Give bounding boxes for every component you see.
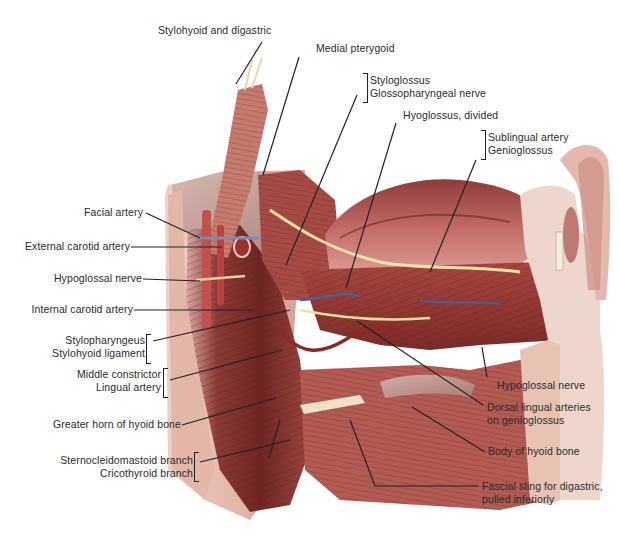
bracket-stylopharyngeus	[146, 334, 151, 364]
label-scm-cricothyroid-group: Sternocleidomastoid branch Cricothyroid …	[60, 454, 193, 480]
anatomy-figure: Stylohyoid and digastric Medial pterygoi…	[0, 0, 619, 540]
label-body-of-hyoid: Body of hyoid bone	[488, 445, 580, 458]
label-hypoglossal-nerve-right: Hypoglossal nerve	[497, 379, 585, 392]
label-fascial-sling: Fascial sling for digastric, pulled infe…	[482, 480, 603, 506]
bracket-sublingual	[481, 130, 486, 160]
leader-body-hyoid	[412, 407, 485, 452]
leader-greater-horn	[182, 398, 276, 425]
label-middle-constrictor-group: Middle constrictor Lingual artery	[77, 368, 161, 394]
label-hyoglossus-divided: Hyoglossus, divided	[403, 109, 498, 122]
leader-sublingual	[430, 160, 476, 272]
leader-middle-constrictor	[170, 350, 282, 380]
label-external-carotid: External carotid artery	[25, 240, 130, 253]
leader-styloglossus	[286, 95, 357, 265]
leader-medial-pterygoid	[263, 57, 299, 175]
label-styloglossus-group: Styloglossus Glossopharyngeal nerve	[370, 74, 486, 100]
leader-dorsal-lingual	[357, 321, 483, 405]
label-greater-horn: Greater horn of hyoid bone	[53, 418, 181, 431]
label-medial-pterygoid: Medial pterygoid	[316, 42, 395, 55]
leader-facial-artery	[146, 213, 200, 238]
label-sublingual-group: Sublingual artery Genioglossus	[488, 131, 569, 157]
leader-hypoglossal-left	[143, 279, 200, 281]
label-stylohyoid-digastric: Stylohyoid and digastric	[158, 24, 271, 37]
leader-scm-cricothyroid	[200, 440, 290, 462]
leader-hypoglossal-right	[482, 347, 487, 377]
label-dorsal-lingual: Dorsal lingual arteries on genioglossus	[487, 401, 591, 427]
label-internal-carotid: Internal carotid artery	[31, 303, 133, 316]
label-stylopharyngeus-group: Stylopharyngeus Stylohyoid ligament	[52, 334, 145, 360]
leader-stylohyoid-digastric	[236, 42, 262, 84]
leader-stylopharyngeus	[153, 310, 290, 341]
bracket-scm-cricothyroid	[194, 452, 199, 482]
bracket-styloglossus	[363, 73, 368, 103]
label-facial-artery: Facial artery	[84, 206, 143, 219]
leader-hyoglossus	[346, 123, 396, 288]
label-hypoglossal-nerve-left: Hypoglossal nerve	[54, 272, 142, 285]
bracket-middle-constrictor	[163, 368, 168, 398]
